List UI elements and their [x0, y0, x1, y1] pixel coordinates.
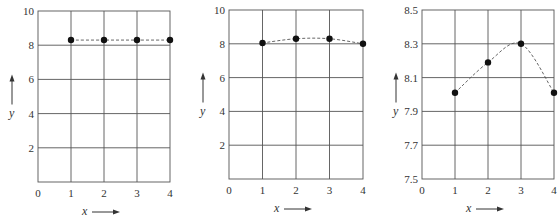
- data-point: [293, 36, 299, 42]
- y-arrowhead-icon: [201, 73, 206, 80]
- y-axis-label: y: [8, 106, 15, 120]
- y-tick-label: 8.3: [404, 38, 418, 50]
- x-tick-label: 1: [452, 184, 458, 196]
- chart-3: 012347.57.77.98.18.38.5xy: [392, 4, 557, 215]
- data-point: [167, 37, 173, 43]
- x-tick-label: 4: [167, 187, 173, 199]
- y-tick-label: 4: [220, 105, 226, 117]
- data-point: [551, 90, 557, 96]
- data-point: [485, 59, 491, 65]
- data-point: [68, 37, 74, 43]
- y-tick-label: 6: [29, 73, 35, 85]
- x-axis-label: x: [465, 201, 472, 215]
- x-tick-label: 3: [327, 184, 333, 196]
- chart-1: 01234246810xy: [8, 5, 173, 218]
- y-tick-label: 10: [214, 4, 226, 16]
- data-point: [326, 36, 332, 42]
- x-tick-label: 2: [101, 187, 107, 199]
- data-point: [360, 41, 366, 47]
- y-axis-label: y: [199, 104, 206, 118]
- data-point: [452, 90, 458, 96]
- x-arrowhead-icon: [113, 210, 120, 215]
- y-tick-label: 6: [220, 72, 226, 84]
- data-point: [134, 37, 140, 43]
- x-axis-label: x: [273, 201, 280, 215]
- y-tick-label: 2: [220, 139, 226, 151]
- y-tick-label: 7.9: [404, 105, 418, 117]
- x-tick-label: 1: [68, 187, 74, 199]
- y-tick-label: 4: [29, 108, 35, 120]
- x-tick-label: 0: [226, 184, 232, 196]
- x-arrowhead-icon: [305, 207, 312, 212]
- data-point: [518, 41, 524, 47]
- y-axis-label: y: [392, 104, 399, 118]
- x-tick-label: 3: [518, 184, 524, 196]
- x-tick-label: 1: [260, 184, 266, 196]
- y-tick-label: 2: [29, 142, 35, 154]
- y-tick-label: 8: [29, 39, 35, 51]
- data-point: [101, 37, 107, 43]
- y-tick-label: 7.7: [404, 139, 418, 151]
- x-tick-label: 4: [551, 184, 557, 196]
- chart-2: 01234246810xy: [199, 4, 366, 215]
- x-axis-label: x: [81, 204, 88, 218]
- y-tick-label: 8: [220, 38, 226, 50]
- y-tick-label: 10: [23, 5, 35, 17]
- y-arrowhead-icon: [10, 75, 15, 82]
- data-point: [259, 40, 265, 46]
- y-tick-label: 7.5: [404, 173, 418, 185]
- x-tick-label: 0: [35, 187, 41, 199]
- charts-canvas: 01234246810xy01234246810xy012347.57.77.9…: [0, 0, 559, 218]
- x-tick-label: 3: [134, 187, 140, 199]
- x-tick-label: 2: [485, 184, 491, 196]
- dashed-connector-curve: [263, 38, 364, 44]
- x-tick-label: 2: [293, 184, 299, 196]
- x-arrowhead-icon: [497, 207, 504, 212]
- y-tick-label: 8.1: [404, 72, 418, 84]
- y-arrowhead-icon: [394, 73, 399, 80]
- x-tick-label: 0: [419, 184, 425, 196]
- dashed-connector-curve: [455, 43, 554, 93]
- x-tick-label: 4: [360, 184, 366, 196]
- y-tick-label: 8.5: [404, 4, 418, 16]
